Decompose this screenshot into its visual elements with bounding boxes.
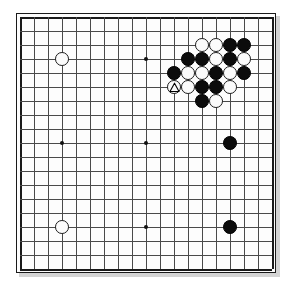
grid-line-vertical-10 (160, 17, 161, 269)
stone-black-o15[interactable] (209, 66, 223, 80)
stone-white-d4[interactable] (55, 220, 69, 234)
stone-black-p16[interactable] (223, 52, 237, 66)
grid-line-horizontal-11 (20, 171, 272, 172)
stone-black-q15[interactable] (237, 66, 251, 80)
stone-white-d16[interactable] (55, 52, 69, 66)
stone-black-n13[interactable] (195, 94, 209, 108)
grid-line-vertical-17 (258, 17, 259, 269)
stone-white-m15[interactable] (181, 66, 195, 80)
grid-line-vertical-18 (272, 17, 274, 269)
grid-line-horizontal-12 (20, 185, 272, 186)
grid-line-horizontal-17 (20, 255, 272, 256)
stone-black-q17[interactable] (237, 38, 251, 52)
stone-black-m16[interactable] (181, 52, 195, 66)
stone-black-o14[interactable] (209, 80, 223, 94)
grid-line-horizontal-16 (20, 241, 272, 242)
stone-white-n15[interactable] (195, 66, 209, 80)
stone-black-l15[interactable] (167, 66, 181, 80)
grid-line-vertical-11 (174, 17, 175, 269)
stone-black-p4[interactable] (223, 220, 237, 234)
stone-white-n17[interactable] (195, 38, 209, 52)
stone-black-p10[interactable] (223, 136, 237, 150)
grid-line-horizontal-10 (20, 157, 272, 158)
stone-white-o17[interactable] (209, 38, 223, 52)
star-point-1 (144, 57, 148, 61)
grid-line-horizontal-18 (20, 269, 272, 271)
stone-white-o16[interactable] (209, 52, 223, 66)
star-point-7 (144, 225, 148, 229)
stone-black-n16[interactable] (195, 52, 209, 66)
stone-black-p17[interactable] (223, 38, 237, 52)
stone-white-m14[interactable] (181, 80, 195, 94)
stone-white-p15[interactable] (223, 66, 237, 80)
grid-line-horizontal-13 (20, 199, 272, 200)
star-point-4 (144, 141, 148, 145)
stone-white-p14[interactable] (223, 80, 237, 94)
grid-line-horizontal-14 (20, 213, 272, 214)
stone-white-l14-marked[interactable] (167, 80, 181, 94)
stone-white-q16[interactable] (237, 52, 251, 66)
stone-black-n14[interactable] (195, 80, 209, 94)
go-board-screenshot (0, 0, 291, 300)
stone-white-o13[interactable] (209, 94, 223, 108)
star-point-3 (60, 141, 64, 145)
